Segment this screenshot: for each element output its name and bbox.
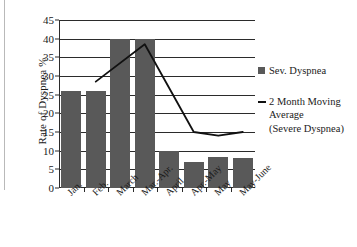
x-axis-category-labels: Jan.Feb.MarchMar.-Apr.AprilApr.-MayMayMa…: [59, 190, 255, 247]
chart-figure: Rate of Dyspnea % 051015202530354045 Jan…: [0, 0, 357, 247]
y-axis-tick-label: 25: [43, 89, 54, 101]
legend-square-swatch-icon: [258, 67, 265, 74]
page-edge-rule: [4, 0, 5, 190]
legend-label-line: 2 Month Moving: [269, 95, 344, 109]
plot-area: 051015202530354045: [59, 20, 255, 188]
legend-label-line: Average: [269, 108, 344, 122]
y-axis-tick-label: 20: [43, 107, 54, 119]
legend-label-line: Sev. Dyspnea: [269, 64, 326, 78]
y-axis-tick-label: 40: [43, 33, 54, 45]
legend-line-swatch-icon: [258, 101, 266, 103]
y-axis-tick-label: 15: [43, 126, 54, 138]
chart-legend: Sev. Dyspnea2 Month MovingAverage(Severe…: [258, 64, 357, 152]
legend-entry: Sev. Dyspnea: [258, 64, 357, 78]
y-axis-tick-label: 35: [43, 51, 54, 63]
legend-entry: 2 Month MovingAverage(Severe Dyspnea): [258, 95, 357, 136]
legend-label: 2 Month MovingAverage(Severe Dyspnea): [269, 95, 344, 136]
legend-label-line: (Severe Dyspnea): [269, 122, 344, 136]
y-axis-tick-label: 5: [49, 163, 55, 175]
x-axis-tick-marks: [59, 20, 255, 188]
y-axis-tick-label: 10: [43, 145, 54, 157]
legend-label: Sev. Dyspnea: [269, 64, 326, 78]
y-axis-tick-label: 0: [49, 182, 55, 194]
y-axis-tick-label: 30: [43, 70, 54, 82]
y-axis-tick-label: 45: [43, 14, 54, 26]
